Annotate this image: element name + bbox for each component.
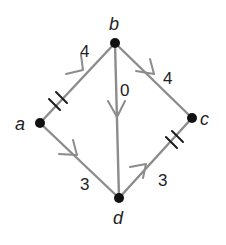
node-c <box>187 113 197 123</box>
node-d <box>114 193 124 203</box>
weight-label-d-c: 3 <box>158 171 167 190</box>
directed-graph-diagram: a b c d 4 4 0 3 3 <box>0 0 226 245</box>
weight-label-a-d: 3 <box>80 175 89 194</box>
weight-label-a-b: 4 <box>80 42 89 61</box>
node-a <box>35 118 45 128</box>
edge-d-c <box>119 118 192 198</box>
node-label-c: c <box>200 109 209 129</box>
node-b <box>110 38 120 48</box>
weight-label-b-d: 0 <box>120 81 129 100</box>
edge-b-d <box>108 43 125 198</box>
node-label-d: d <box>113 208 124 228</box>
node-label-b: b <box>109 14 119 34</box>
node-label-a: a <box>15 114 25 134</box>
edge-a-b <box>40 43 115 123</box>
weight-label-b-c: 4 <box>163 69 172 88</box>
